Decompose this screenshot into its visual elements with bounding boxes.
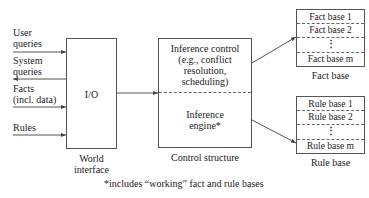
label-line: queries: [13, 66, 42, 77]
caption-line: interface: [66, 164, 117, 175]
label-line: (incl. data): [13, 94, 56, 105]
text-line: Inference control: [159, 43, 251, 54]
rule-base-caption: Rule base: [296, 157, 365, 168]
section-divider: [159, 92, 251, 93]
label-line: Rules: [13, 122, 36, 133]
rule-base-item: Rule base 2: [297, 112, 364, 122]
label-line: Facts: [13, 83, 56, 94]
io-box: I/O: [66, 38, 117, 149]
user-queries-label: User queries: [13, 27, 42, 49]
control-factbase-arrow: [252, 37, 296, 63]
text-line: scheduling): [159, 76, 251, 87]
io-label: I/O: [67, 89, 116, 100]
item-divider: [297, 139, 364, 140]
footnote: *includes “working” fact and rule bases: [104, 178, 264, 189]
label-line: User: [13, 27, 42, 38]
inference-engine-section: Inference engine*: [159, 109, 251, 131]
caption-line: World: [66, 153, 117, 164]
text-line: engine*: [159, 120, 251, 131]
fact-base-item: Fact base 1: [297, 12, 364, 22]
fact-base-item: Fact base 2: [297, 25, 364, 35]
inference-control-section: Inference control (e.g., conflict resolu…: [159, 43, 251, 87]
item-divider: [297, 52, 364, 53]
rule-base-item: Rule base m: [297, 141, 364, 151]
text-line: resolution,: [159, 65, 251, 76]
rule-base-item: Rule base 1: [297, 99, 364, 109]
control-structure-caption: Control structure: [158, 152, 252, 163]
label-line: System: [13, 55, 42, 66]
rule-base-box: Rule base 1 Rule base 2 ⋮ Rule base m: [296, 96, 365, 154]
control-structure-box: Inference control (e.g., conflict resolu…: [158, 38, 252, 148]
control-rulebase-arrow: [252, 120, 296, 143]
text-line: (e.g., conflict: [159, 54, 251, 65]
item-divider: [297, 110, 364, 111]
system-queries-label: System queries: [13, 55, 42, 77]
ellipsis-icon: ⋮: [297, 39, 364, 49]
world-interface-caption: World interface: [66, 153, 117, 175]
fact-base-box: Fact base 1 Fact base 2 ⋮ Fact base m: [296, 9, 365, 67]
item-divider: [297, 37, 364, 38]
facts-label: Facts (incl. data): [13, 83, 56, 105]
label-line: queries: [13, 38, 42, 49]
fact-base-item: Fact base m: [297, 54, 364, 64]
ellipsis-icon: ⋮: [297, 126, 364, 136]
item-divider: [297, 124, 364, 125]
item-divider: [297, 23, 364, 24]
text-line: Inference: [159, 109, 251, 120]
rules-label: Rules: [13, 122, 36, 133]
fact-base-caption: Fact base: [296, 70, 365, 81]
